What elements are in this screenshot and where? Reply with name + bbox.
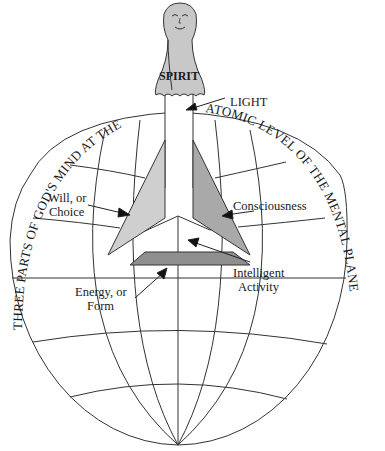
globe-parallel xyxy=(33,218,120,228)
globe-parallel xyxy=(215,162,286,178)
will-label-line1: Will, or xyxy=(48,191,87,205)
will-arrowhead xyxy=(118,208,130,217)
spirit-figure: SPIRIT xyxy=(155,3,204,96)
spirit-label: SPIRIT xyxy=(159,69,199,83)
intelligent-label-line2: Activity xyxy=(238,280,280,294)
intelligent-arrowhead xyxy=(188,238,199,247)
will-label-line2: Choice xyxy=(49,205,85,219)
diagram-canvas: SPIRIT THREE PARTS OF GOD'S MIND AT THE … xyxy=(0,0,385,451)
consciousness-panel xyxy=(193,140,250,255)
globe-parallel xyxy=(238,218,325,227)
energy-label-line1: Energy, or xyxy=(75,285,128,299)
energy-panel xyxy=(130,252,250,265)
intelligent-label-line1: Intelligent xyxy=(233,266,285,280)
consciousness-label: Consciousness xyxy=(233,199,307,213)
globe-parallel xyxy=(70,165,145,178)
globe-parallel xyxy=(33,330,327,344)
energy-label-line2: Form xyxy=(87,299,114,313)
light-label: LIGHT xyxy=(230,95,268,109)
